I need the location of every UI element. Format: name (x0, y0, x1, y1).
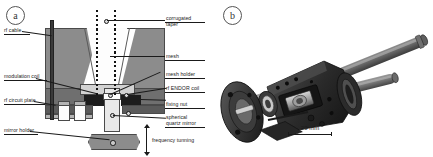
label-frequency-tunning: frequency tunning (152, 137, 194, 143)
label-mesh-holder: mesh holder (166, 71, 195, 77)
scale-bar: 20 mm (288, 125, 332, 136)
panel-b-photograph: b (216, 0, 433, 157)
mirror-holder-bolt (110, 140, 116, 146)
label-corrugated-taper: corrugated taper (166, 15, 191, 28)
label-rf-circuit-plate: rf circuit plate (4, 97, 36, 103)
scale-bar-line (288, 132, 332, 136)
modulation-coil-cap-left (58, 101, 70, 106)
panel-a-schematic: a (0, 0, 216, 157)
underline-rf-circuit-plate (4, 104, 45, 105)
underline-mirror-holder (4, 134, 38, 135)
underline-fixing-nut (165, 108, 205, 109)
modulation-coil-cap-right (74, 101, 86, 106)
panel-b-letter: b (223, 6, 242, 25)
panel-a-letter: a (6, 6, 25, 25)
label-mirror-holder: mirror holder (4, 127, 34, 133)
leader-spherical-quartz-mirror (113, 115, 166, 118)
label-rf-endor-coil: rf ENDOR coil (166, 85, 199, 91)
scale-bar-cap-right (331, 132, 332, 136)
underline-mesh-holder (165, 78, 205, 79)
underline-spherical-quartz-mirror (165, 127, 205, 128)
frequency-tuning-arrow-up (144, 124, 150, 128)
underline-mesh (165, 60, 205, 61)
underline-rf-endor-coil (165, 92, 205, 93)
label-modulation-coil: modulation coil (4, 73, 39, 79)
beam-axis-dotted-right (114, 10, 116, 95)
label-rf-cable: rf cable (4, 27, 21, 33)
scale-bar-label: 20 mm (288, 125, 332, 131)
underline-rf-cable (4, 34, 30, 35)
label-mesh: mesh (166, 53, 179, 59)
frequency-tuning-arrow-shaft (146, 128, 147, 152)
leader-mesh (110, 56, 165, 57)
frequency-tuning-arrow-down (144, 152, 150, 156)
figure-root: a (0, 0, 433, 157)
label-spherical-quartz-mirror: spherical quartz mirror (166, 114, 196, 127)
label-fixing-nut: fixing nut (166, 101, 187, 107)
leader-corrugated-taper (107, 20, 165, 21)
beam-axis-dotted-left (96, 10, 98, 95)
